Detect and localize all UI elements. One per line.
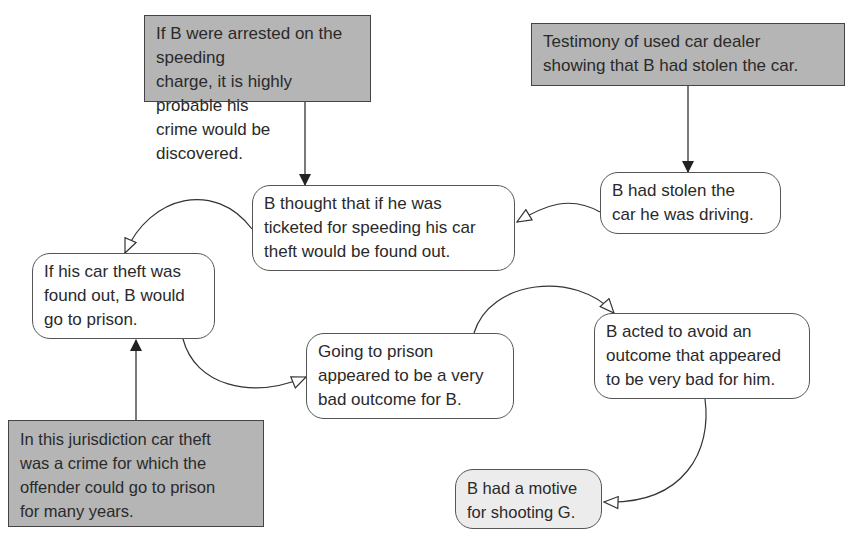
node-acted-to-avoid: B acted to avoid an outcome that appeare… — [594, 313, 810, 399]
edge-acted-to-motive — [604, 399, 706, 502]
edge-thought-to-prison — [125, 200, 252, 253]
node-evidence-dealer: Testimony of used car dealer showing tha… — [531, 23, 845, 86]
node-jurisdiction-law: In this jurisdiction car theft was a cri… — [8, 420, 264, 527]
edge-stolen-to-thought — [517, 203, 600, 222]
node-evidence-arrest: If B were arrested on the speeding charg… — [144, 15, 371, 102]
edge-bad-to-acted — [474, 286, 614, 333]
edge-prison-to-bad — [183, 339, 306, 388]
node-thought-found-out: B thought that if he was ticketed for sp… — [252, 185, 515, 271]
node-go-to-prison: If his car theft was found out, B would … — [32, 253, 215, 339]
node-bad-outcome: Going to prison appeared to be a very ba… — [306, 333, 514, 419]
node-stolen-car: B had stolen the car he was driving. — [600, 172, 781, 234]
node-motive-conclusion: B had a motive for shooting G. — [455, 469, 602, 529]
